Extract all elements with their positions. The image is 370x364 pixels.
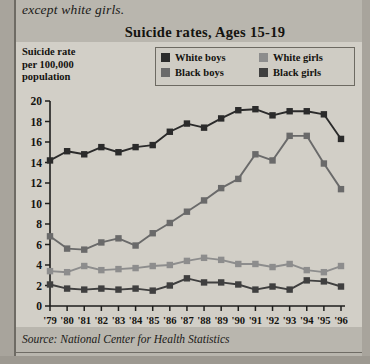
- data-marker: [201, 279, 207, 285]
- data-marker: [286, 108, 292, 114]
- data-marker: [218, 115, 224, 121]
- data-marker: [218, 185, 224, 191]
- x-tick-label: '90: [232, 315, 246, 326]
- data-marker: [167, 262, 173, 268]
- series-white-boys: [47, 106, 344, 164]
- data-marker: [47, 268, 53, 274]
- data-marker: [115, 266, 121, 272]
- data-marker: [235, 107, 241, 113]
- data-marker: [184, 258, 190, 264]
- data-marker: [132, 242, 138, 248]
- data-marker: [304, 133, 310, 139]
- figure-screenshot: except white girls. Suicide rates, Ages …: [0, 0, 370, 364]
- data-marker: [184, 120, 190, 126]
- data-marker: [132, 285, 138, 291]
- data-marker: [47, 157, 53, 163]
- page-bottom-margin: [0, 356, 370, 364]
- y-tick-label: 18: [31, 116, 43, 128]
- y-tick-label: 4: [36, 259, 42, 271]
- data-marker: [269, 157, 275, 163]
- data-marker: [167, 129, 173, 135]
- data-marker: [98, 285, 104, 291]
- data-marker: [252, 106, 258, 112]
- data-marker: [338, 283, 344, 289]
- series-black-girls: [47, 275, 344, 294]
- x-tick-label: '85: [146, 315, 160, 326]
- data-marker: [167, 220, 173, 226]
- data-marker: [201, 124, 207, 130]
- y-tick-label: 2: [36, 280, 42, 292]
- data-marker: [184, 275, 190, 281]
- data-marker: [132, 265, 138, 271]
- data-marker: [150, 142, 156, 148]
- caption-above-figure: except white girls.: [22, 2, 322, 18]
- data-marker: [252, 261, 258, 267]
- data-marker: [286, 286, 292, 292]
- x-tick-label: '89: [214, 315, 228, 326]
- y-tick-label: 6: [36, 239, 42, 251]
- data-marker: [304, 108, 310, 114]
- data-marker: [321, 269, 327, 275]
- data-marker: [81, 286, 87, 292]
- x-tick-label: '83: [112, 315, 126, 326]
- figure-title: Suicide rates, Ages 15-19: [60, 24, 350, 41]
- data-marker: [286, 133, 292, 139]
- x-tick-label: '84: [129, 315, 143, 326]
- data-marker: [201, 197, 207, 203]
- y-tick-label: 20: [31, 95, 43, 107]
- data-marker: [252, 151, 258, 157]
- data-marker: [167, 282, 173, 288]
- y-tick-label: 12: [31, 177, 43, 189]
- page-right-margin: [362, 0, 370, 364]
- data-marker: [235, 261, 241, 267]
- y-tick-label: 0: [36, 300, 42, 312]
- x-tick-label: '82: [95, 315, 109, 326]
- data-marker: [98, 267, 104, 273]
- data-marker: [115, 235, 121, 241]
- data-marker: [269, 112, 275, 118]
- data-marker: [235, 176, 241, 182]
- y-tick-label: 10: [31, 198, 43, 210]
- data-marker: [98, 239, 104, 245]
- x-tick-label: '80: [60, 315, 74, 326]
- series-white-girls: [47, 255, 344, 276]
- data-marker: [115, 286, 121, 292]
- data-marker: [321, 111, 327, 117]
- x-tick-label: '86: [163, 315, 177, 326]
- data-marker: [150, 263, 156, 269]
- source-divider: [16, 352, 362, 353]
- x-tick-label: '87: [180, 315, 194, 326]
- data-marker: [98, 144, 104, 150]
- x-tick-label: '81: [77, 315, 91, 326]
- data-marker: [338, 263, 344, 269]
- y-tick-label: 8: [36, 218, 42, 230]
- x-tick-label: '91: [249, 315, 263, 326]
- data-marker: [47, 281, 53, 287]
- data-marker: [150, 287, 156, 293]
- data-marker: [269, 283, 275, 289]
- data-marker: [132, 144, 138, 150]
- data-marker: [338, 186, 344, 192]
- x-tick-label: '79: [43, 315, 57, 326]
- data-marker: [338, 136, 344, 142]
- data-marker: [64, 245, 70, 251]
- data-marker: [81, 246, 87, 252]
- data-marker: [201, 255, 207, 261]
- data-marker: [81, 151, 87, 157]
- plot-area: 02468101214161820'79'80'81'82'83'84'85'8…: [16, 42, 362, 327]
- data-marker: [184, 209, 190, 215]
- data-marker: [218, 279, 224, 285]
- line-chart-svg: 02468101214161820'79'80'81'82'83'84'85'8…: [16, 42, 362, 327]
- data-marker: [64, 269, 70, 275]
- data-marker: [64, 285, 70, 291]
- y-tick-label: 14: [31, 157, 43, 169]
- data-marker: [218, 257, 224, 263]
- page-left-margin: [0, 0, 14, 364]
- x-tick-label: '95: [317, 315, 331, 326]
- data-marker: [304, 277, 310, 283]
- data-marker: [269, 264, 275, 270]
- data-marker: [286, 261, 292, 267]
- x-tick-label: '88: [197, 315, 211, 326]
- data-marker: [235, 281, 241, 287]
- y-tick-label: 16: [31, 136, 43, 148]
